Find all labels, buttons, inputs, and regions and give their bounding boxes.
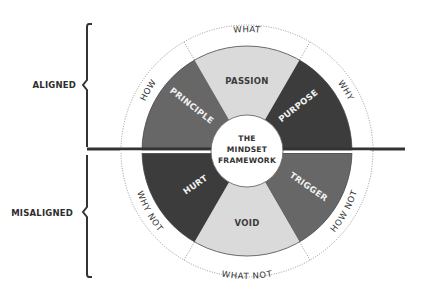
ring-label-how: HOW — [138, 77, 159, 102]
label-void: VOID — [234, 218, 259, 228]
center-title-line-3: FRAMEWORK — [218, 156, 277, 165]
label-passion: PASSION — [225, 76, 269, 86]
ring-label-what: WHAT — [233, 24, 261, 35]
ring-label-what-not: WHAT NOT — [221, 268, 273, 281]
center-title-line-1: THE — [238, 134, 255, 143]
mindset-framework-diagram: ALIGNED MISALIGNED THE MINDSET FRAMEWORK… — [0, 0, 421, 296]
ring-label-why: WHY — [336, 78, 356, 102]
misaligned-label: MISALIGNED — [11, 208, 73, 218]
aligned-label: ALIGNED — [32, 80, 76, 90]
center-title-line-2: MINDSET — [227, 145, 268, 154]
